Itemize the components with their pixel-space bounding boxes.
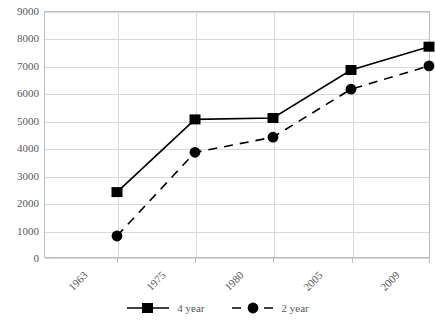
y-tick-label-4000: 4000	[3, 143, 39, 154]
legend-swatch-2-year	[231, 302, 275, 314]
y-tick-label-6000: 6000	[3, 88, 39, 99]
gridline-1000	[45, 232, 429, 233]
chart-title-clipped	[44, 0, 384, 2]
gridline-3000	[45, 177, 429, 178]
legend-entry-2-year[interactable]: 2 year	[231, 302, 309, 314]
gridline-7000	[45, 67, 429, 68]
y-tick-label-1000: 1000	[3, 226, 39, 237]
y-tick-label-0: 0	[3, 253, 39, 264]
gridline-9000	[45, 12, 429, 13]
gridline-5000	[45, 122, 429, 123]
chart-legend: 4 year 2 year	[0, 298, 435, 318]
x-tickmark-1975	[195, 258, 196, 263]
gridline-6000	[45, 94, 429, 95]
y-tick-label-2000: 2000	[3, 198, 39, 209]
legend-swatch-4-year	[126, 302, 170, 314]
gridline-8000	[45, 39, 429, 40]
y-tick-label-9000: 9000	[3, 6, 39, 17]
vgridline-1975	[196, 12, 197, 257]
y-tick-label-3000: 3000	[3, 171, 39, 182]
y-tick-label-8000: 8000	[3, 33, 39, 44]
x-tickmark-1963	[117, 258, 118, 263]
legend-label-2-year: 2 year	[282, 303, 309, 314]
x-tick-label-2009: 2009	[371, 270, 401, 300]
gridline-4000	[45, 149, 429, 150]
x-tick-label-1963: 1963	[59, 270, 89, 300]
y-tick-label-7000: 7000	[3, 61, 39, 72]
x-tickmark-2005	[352, 258, 353, 263]
x-tickmark-2009	[429, 258, 430, 263]
legend-entry-4-year[interactable]: 4 year	[126, 302, 204, 314]
x-tick-label-2005: 2005	[294, 270, 324, 300]
x-tick-label-1980: 1980	[215, 270, 245, 300]
vgridline-2005	[353, 12, 354, 257]
plot-area	[44, 11, 430, 258]
x-tick-label-1975: 1975	[137, 270, 167, 300]
y-tick-label-5000: 5000	[3, 116, 39, 127]
chart-container: 9000 8000 7000 6000 5000 4000 3000 2000 …	[0, 0, 435, 321]
gridline-0	[45, 258, 429, 259]
vgridline-1980	[274, 12, 275, 257]
x-tickmark-1980	[273, 258, 274, 263]
gridline-2000	[45, 204, 429, 205]
vgridline-1963	[118, 12, 119, 257]
legend-label-4-year: 4 year	[177, 303, 204, 314]
